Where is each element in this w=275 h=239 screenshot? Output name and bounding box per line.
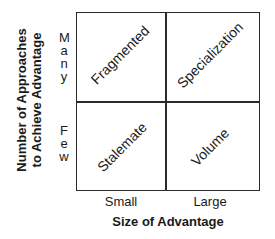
x-level-small: Small [105, 194, 138, 209]
x-level-large: Large [193, 194, 226, 209]
horizontal-divider [76, 101, 260, 103]
y-axis-title-line1: Number of Approaches [14, 28, 29, 171]
y-level-many: Many [59, 31, 69, 83]
y-level-few: Few [59, 124, 69, 163]
y-axis-title: Number of Approaches to Achieve Advantag… [14, 28, 44, 171]
x-axis-title: Size of Advantage [112, 214, 223, 229]
y-axis-title-line2: to Achieve Advantage [29, 28, 44, 171]
